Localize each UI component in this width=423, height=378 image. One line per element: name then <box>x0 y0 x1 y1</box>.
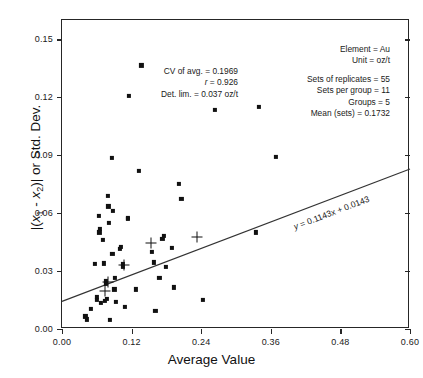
detection-limit-line: Det. lim. = 0.037 oz/t <box>128 89 238 100</box>
data-point-marker <box>98 226 102 230</box>
y-axis-title-suffix: )| or Std. Dev. <box>28 105 43 187</box>
data-point-marker <box>111 209 115 213</box>
data-point-marker <box>106 194 110 198</box>
y-tick <box>57 329 62 330</box>
data-point-marker <box>107 221 111 225</box>
group-mean-marker <box>102 277 113 288</box>
x-tick-label: 0.00 <box>53 337 71 347</box>
data-point-marker <box>109 156 113 160</box>
element-line: Element = Au <box>240 44 390 55</box>
x-tick <box>410 329 411 334</box>
mean-sets-line: Mean (sets) = 0.1732 <box>240 108 390 119</box>
data-point-marker <box>85 317 89 321</box>
data-point-marker <box>108 318 112 322</box>
data-point-marker <box>93 262 97 266</box>
x-tick <box>132 329 133 334</box>
x-tick-label: 0.12 <box>122 337 140 347</box>
data-point-marker <box>113 276 117 280</box>
y-tick-label: 0.06 <box>20 208 53 218</box>
data-point-marker <box>126 217 130 221</box>
data-point-marker <box>89 307 93 311</box>
y-tick-label: 0.12 <box>20 92 53 102</box>
data-point-marker <box>157 276 161 280</box>
r-value: = 0.926 <box>207 77 238 87</box>
x-axis-title: Average Value <box>0 352 423 367</box>
data-point-marker <box>106 204 110 208</box>
x-tick-label: 0.48 <box>331 337 349 347</box>
data-point-marker <box>170 246 174 250</box>
data-point-marker <box>118 245 122 249</box>
data-point-marker <box>153 309 157 313</box>
data-point-marker <box>177 182 181 186</box>
data-point-marker <box>162 234 166 238</box>
cv-of-average-line: CV of avg. = 0.1969 <box>128 66 238 77</box>
data-point-marker <box>114 300 118 304</box>
correlation-line: r = 0.926 <box>128 77 238 88</box>
data-point-marker <box>172 285 176 289</box>
data-point-marker <box>97 230 101 234</box>
group-mean-marker <box>145 237 156 248</box>
statistics-annotation-right: Element = Au Unit = oz/t Sets of replica… <box>240 44 390 119</box>
y-tick-label: 0.09 <box>20 150 53 160</box>
data-point-marker <box>179 197 183 201</box>
x-tick <box>62 329 63 334</box>
y-tick-right <box>405 329 410 330</box>
data-point-marker <box>112 287 116 291</box>
group-mean-marker <box>118 260 129 271</box>
group-mean-marker <box>191 231 202 242</box>
data-point-marker <box>123 305 127 309</box>
x-tick-label: 0.24 <box>192 337 210 347</box>
x-tick-label: 0.36 <box>262 337 280 347</box>
y-axis-title-sub2: 2 <box>35 187 45 192</box>
scatter-plot-figure: |(x1 - x2)| or Std. Dev. Average Value 0… <box>0 0 423 378</box>
x-tick <box>340 329 341 334</box>
plot-area: 0.000.120.240.360.480.60 0.000.030.060.0… <box>61 19 409 328</box>
sets-per-group-line: Sets per group = 11 <box>240 85 390 96</box>
data-point-marker <box>274 155 278 159</box>
data-point-marker <box>254 230 258 234</box>
data-point-marker <box>213 108 217 112</box>
data-point-marker <box>150 250 154 254</box>
data-point-marker <box>110 252 114 256</box>
y-tick-label: 0.15 <box>20 34 53 44</box>
data-point-marker <box>136 169 140 173</box>
data-point-marker <box>152 260 156 264</box>
y-axis-title: |(x1 - x2)| or Std. Dev. <box>28 38 43 298</box>
sets-of-replicates-line: Sets of replicates = 55 <box>240 74 390 85</box>
y-tick-label: 0.00 <box>20 324 53 334</box>
data-point-marker <box>163 265 167 269</box>
data-point-marker <box>102 261 106 265</box>
x-tick-label: 0.60 <box>401 337 419 347</box>
data-point-marker <box>201 298 205 302</box>
data-point-marker <box>134 287 138 291</box>
statistics-annotation-left: CV of avg. = 0.1969 r = 0.926 Det. lim. … <box>128 66 238 100</box>
annotation-spacer <box>240 67 390 74</box>
y-axis-title-prefix: |( <box>28 222 43 230</box>
unit-line: Unit = oz/t <box>240 55 390 66</box>
data-point-marker <box>101 238 105 242</box>
data-point-marker <box>97 214 101 218</box>
y-tick-label: 0.03 <box>20 266 53 276</box>
x-tick <box>271 329 272 334</box>
y-axis-title-x2: x <box>28 192 43 199</box>
data-point-marker <box>105 297 109 301</box>
x-tick <box>201 329 202 334</box>
groups-line: Groups = 5 <box>240 97 390 108</box>
data-point-marker <box>95 295 99 299</box>
